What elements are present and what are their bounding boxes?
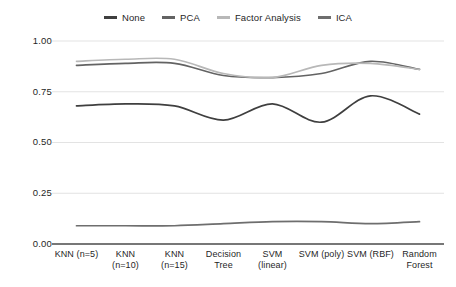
y-tick-0-75: 0.75 (6, 87, 52, 97)
plot-area (0, 0, 456, 287)
gridlines (52, 41, 444, 244)
chart-figure: None PCA Factor Analysis ICA 1.00 0.75 0… (0, 0, 456, 287)
x-tick-knn-n5: KNN (n=5) (52, 249, 101, 287)
y-tick-0-25: 0.25 (6, 188, 52, 198)
x-tick-decision-tree: Decision Tree (199, 249, 248, 287)
x-axis-tick-labels: KNN (n=5) KNN (n=10) KNN (n=15) Decision… (52, 249, 444, 287)
y-tick-0-00: 0.00 (6, 239, 52, 249)
x-tick-knn-n10: KNN (n=10) (101, 249, 150, 287)
y-tick-0-50: 0.50 (6, 137, 52, 147)
x-tick-svm-linear: SVM (linear) (248, 249, 297, 287)
series-line-none (77, 96, 420, 123)
chart-canvas (0, 0, 456, 287)
y-tick-1-00: 1.00 (6, 36, 52, 46)
data-series-group (77, 58, 420, 226)
x-tick-random-forest: Random Forest (395, 249, 444, 287)
y-axis-tick-labels: 1.00 0.75 0.50 0.25 0.00 (0, 0, 52, 287)
x-tick-svm-poly: SVM (poly) (297, 249, 346, 287)
x-tick-knn-n15: KNN (n=15) (150, 249, 199, 287)
x-tick-svm-rbf: SVM (RBF) (346, 249, 395, 287)
series-line-ica (77, 221, 420, 225)
